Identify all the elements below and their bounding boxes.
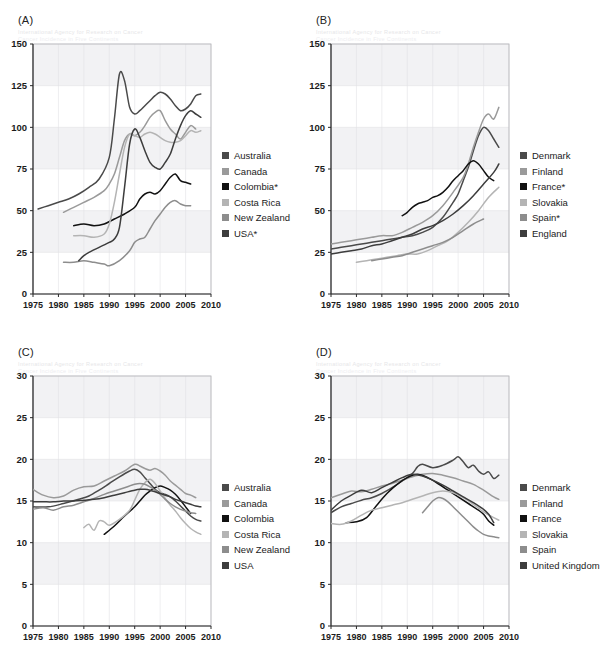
legend-item[interactable]: Colombia xyxy=(222,511,290,527)
legend-swatch-icon xyxy=(222,183,229,190)
x-tick-label: 2005 xyxy=(474,300,494,310)
legend-label: Slovakia xyxy=(532,198,568,208)
x-tick-label: 1990 xyxy=(99,300,119,310)
y-tick-label: 30 xyxy=(314,370,325,381)
legend-item[interactable]: New Zealand xyxy=(222,542,290,558)
legend-item[interactable]: Slovakia xyxy=(520,527,600,543)
legend-swatch-icon xyxy=(520,152,527,159)
legend-label: Denmark xyxy=(532,151,571,161)
legend-swatch-icon xyxy=(222,199,229,206)
x-tick-label: 2000 xyxy=(150,300,170,310)
x-tick-label: 1990 xyxy=(397,632,417,642)
y-tick-label: 30 xyxy=(16,370,27,381)
x-tick-label: 1990 xyxy=(99,632,119,642)
y-tick-label: 125 xyxy=(11,80,28,91)
y-tick-label: 10 xyxy=(16,537,27,548)
legend-swatch-icon xyxy=(222,546,229,553)
legend-item[interactable]: Canada xyxy=(222,496,290,512)
legend-item[interactable]: United Kingdom xyxy=(520,558,600,574)
legend-label: Colombia* xyxy=(234,182,278,192)
y-tick-label: 25 xyxy=(314,247,325,258)
x-tick-label: 2005 xyxy=(176,632,196,642)
legend-swatch-icon xyxy=(222,531,229,538)
legend-item[interactable]: Spain xyxy=(520,542,600,558)
x-tick-label: 1995 xyxy=(125,300,145,310)
y-tick-label: 5 xyxy=(320,579,326,590)
y-tick-label: 20 xyxy=(16,454,27,465)
legend-item[interactable]: Australia xyxy=(222,480,290,496)
legend-item[interactable]: Slovakia xyxy=(520,195,571,211)
x-tick-label: 1980 xyxy=(346,632,366,642)
legend-swatch-icon xyxy=(222,152,229,159)
legend-label: USA* xyxy=(234,229,257,239)
x-tick-label: 1975 xyxy=(321,300,341,310)
legend-label: France xyxy=(532,514,562,524)
y-tick-label: 15 xyxy=(16,495,27,506)
legend-swatch-icon xyxy=(222,515,229,522)
y-tick-label: 20 xyxy=(314,454,325,465)
x-tick-label: 2010 xyxy=(499,300,519,310)
legend-label: England xyxy=(532,229,567,239)
legend-item[interactable]: Spain* xyxy=(520,210,571,226)
legend-label: Slovakia xyxy=(532,530,568,540)
x-tick-label: 1995 xyxy=(423,632,443,642)
legend-swatch-icon xyxy=(520,484,527,491)
legend-item[interactable]: Canada xyxy=(222,164,290,180)
legend-label: Australia xyxy=(234,151,271,161)
legend-d: DenmarkFinlandFranceSlovakiaSpainUnited … xyxy=(520,480,600,573)
y-tick-label: 50 xyxy=(314,205,325,216)
legend-c: AustraliaCanadaColombiaCosta RicaNew Zea… xyxy=(222,480,290,573)
y-tick-label: 75 xyxy=(16,163,27,174)
legend-swatch-icon xyxy=(520,500,527,507)
series-line xyxy=(423,498,499,538)
legend-label: Finland xyxy=(532,167,563,177)
x-tick-label: 1975 xyxy=(23,632,43,642)
legend-label: Colombia xyxy=(234,514,274,524)
y-tick-label: 25 xyxy=(16,247,27,258)
legend-item[interactable]: England xyxy=(520,226,571,242)
legend-item[interactable]: Costa Rica xyxy=(222,195,290,211)
y-tick-label: 0 xyxy=(22,620,27,631)
legend-label: Canada xyxy=(234,167,267,177)
legend-label: Spain* xyxy=(532,213,560,223)
legend-label: New Zealand xyxy=(234,545,290,555)
legend-item[interactable]: France* xyxy=(520,179,571,195)
legend-swatch-icon xyxy=(222,230,229,237)
legend-item[interactable]: Denmark xyxy=(520,148,571,164)
x-tick-label: 2000 xyxy=(448,300,468,310)
legend-item[interactable]: Finland xyxy=(520,496,600,512)
y-tick-label: 5 xyxy=(22,579,28,590)
legend-item[interactable]: Costa Rica xyxy=(222,527,290,543)
legend-item[interactable]: USA xyxy=(222,558,290,574)
legend-item[interactable]: Denmark xyxy=(520,480,600,496)
legend-label: Canada xyxy=(234,499,267,509)
x-tick-label: 1990 xyxy=(397,300,417,310)
panel-b: (B) International Agency for Research on… xyxy=(298,0,596,332)
legend-swatch-icon xyxy=(222,562,229,569)
x-tick-label: 1985 xyxy=(74,632,94,642)
legend-label: Spain xyxy=(532,545,556,555)
panel-a: (A) International Agency for Research on… xyxy=(0,0,298,332)
legend-label: Costa Rica xyxy=(234,198,280,208)
y-tick-label: 75 xyxy=(314,163,325,174)
x-tick-label: 2010 xyxy=(201,300,221,310)
legend-swatch-icon xyxy=(520,546,527,553)
x-tick-label: 2000 xyxy=(448,632,468,642)
legend-item[interactable]: USA* xyxy=(222,226,290,242)
x-tick-label: 1975 xyxy=(23,300,43,310)
x-tick-label: 2010 xyxy=(499,632,519,642)
legend-swatch-icon xyxy=(520,214,527,221)
legend-item[interactable]: New Zealand xyxy=(222,210,290,226)
legend-item[interactable]: Colombia* xyxy=(222,179,290,195)
legend-item[interactable]: Australia xyxy=(222,148,290,164)
legend-item[interactable]: France xyxy=(520,511,600,527)
legend-label: Costa Rica xyxy=(234,530,280,540)
x-tick-label: 2005 xyxy=(474,632,494,642)
legend-swatch-icon xyxy=(222,500,229,507)
legend-a: AustraliaCanadaColombia*Costa RicaNew Ze… xyxy=(222,148,290,241)
y-tick-label: 10 xyxy=(314,537,325,548)
x-tick-label: 1985 xyxy=(372,300,392,310)
x-tick-label: 1985 xyxy=(74,300,94,310)
legend-item[interactable]: Finland xyxy=(520,164,571,180)
